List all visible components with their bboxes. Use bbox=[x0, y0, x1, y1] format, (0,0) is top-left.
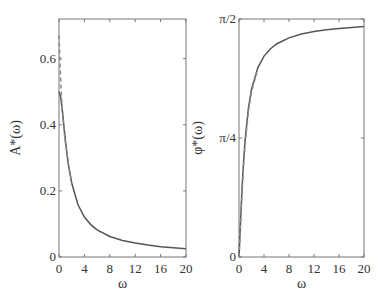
x-tick-label: 0 bbox=[236, 261, 243, 276]
y-tick-label: π/2 bbox=[219, 11, 236, 26]
y-axis-label: A*(ω) bbox=[8, 120, 24, 156]
y-tick-label: 0.4 bbox=[40, 117, 57, 132]
y-tick-label: 0.6 bbox=[40, 51, 57, 66]
amplitude-plot: 04812162000.20.40.6ωA*(ω) bbox=[8, 19, 193, 291]
series-dashed-line bbox=[239, 69, 258, 257]
x-tick-label: 8 bbox=[107, 261, 114, 276]
phase-plot: 0481216200π/4π/2ωφ*(ω) bbox=[190, 11, 371, 291]
x-tick-label: 8 bbox=[286, 261, 293, 276]
x-tick-label: 16 bbox=[333, 261, 347, 276]
x-tick-label: 12 bbox=[308, 261, 321, 276]
plot-frame bbox=[239, 19, 364, 257]
series-solid-line bbox=[59, 92, 186, 249]
x-tick-label: 20 bbox=[358, 261, 371, 276]
x-tick-label: 4 bbox=[81, 261, 88, 276]
x-tick-label: 12 bbox=[129, 261, 142, 276]
x-tick-label: 16 bbox=[154, 261, 168, 276]
x-axis-label: ω bbox=[118, 276, 127, 291]
y-axis-label: φ*(ω) bbox=[190, 121, 206, 155]
y-tick-label: 0 bbox=[50, 249, 57, 264]
series-dashed-line bbox=[59, 36, 72, 184]
y-tick-label: π/4 bbox=[219, 130, 236, 145]
x-tick-label: 0 bbox=[56, 261, 63, 276]
y-tick-label: 0.2 bbox=[40, 183, 56, 198]
figure: 04812162000.20.40.6ωA*(ω) 0481216200π/4π… bbox=[0, 0, 384, 306]
x-tick-label: 4 bbox=[261, 261, 268, 276]
x-axis-label: ω bbox=[297, 276, 306, 291]
plot-frame bbox=[59, 19, 186, 257]
y-tick-label: 0 bbox=[230, 249, 237, 264]
x-tick-label: 20 bbox=[180, 261, 193, 276]
series-solid-line bbox=[239, 27, 364, 258]
